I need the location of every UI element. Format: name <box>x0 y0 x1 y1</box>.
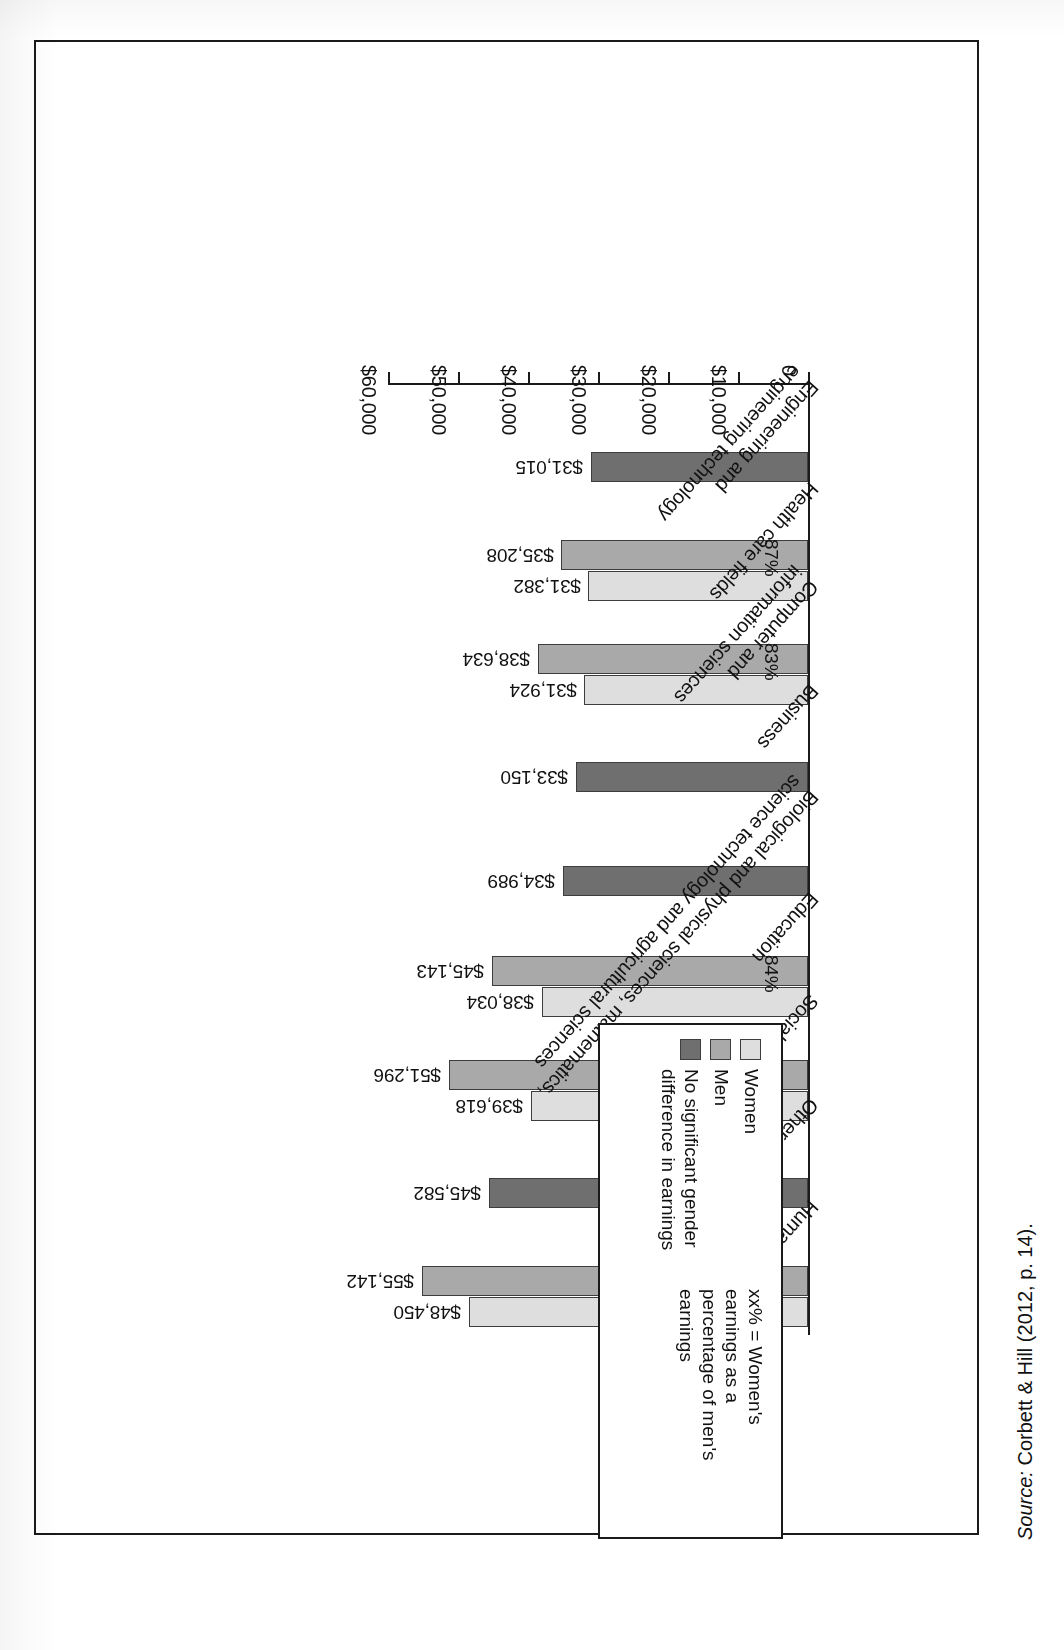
bar-value-women: $31,924 <box>510 675 577 705</box>
legend-label-women: Women <box>740 1069 763 1134</box>
source-prefix: Source: <box>1014 1471 1036 1540</box>
bar-value-nosig: $33,150 <box>501 762 568 792</box>
axis-tick-label: $60,000 <box>357 365 380 435</box>
axis-tick <box>458 372 460 385</box>
axis-tick <box>808 372 810 385</box>
legend-entry-nosig: No significant gender difference in earn… <box>657 1039 703 1250</box>
value-axis: 0 $10,000 $20,000 $30,000 $40,000 $50,00… <box>388 265 810 385</box>
bar-value-women: $39,618 <box>456 1091 523 1121</box>
bar-nosig[interactable] <box>591 452 808 482</box>
figure-page: $48,450 $55,142 88% $45,582 $39,618 $51,… <box>0 0 1064 1650</box>
legend-label-nosig: No significant gender difference in earn… <box>657 1069 703 1250</box>
bar-nosig[interactable] <box>576 762 808 792</box>
legend-swatch-women <box>740 1039 761 1060</box>
axis-tick-label: $40,000 <box>497 365 520 435</box>
rotated-figure-content: $48,450 $55,142 88% $45,582 $39,618 $51,… <box>34 40 975 1531</box>
bar-value-women: $48,450 <box>394 1297 461 1327</box>
legend-swatch-nosig <box>680 1039 701 1060</box>
source-text: Corbett & Hill (2012, p. 14). <box>1014 1223 1036 1471</box>
bar-value-men: $38,634 <box>463 644 530 674</box>
bar-value-men: $51,296 <box>374 1060 441 1090</box>
ratio-annotation: 83% <box>760 643 782 680</box>
bar-value-men: $45,143 <box>417 956 484 986</box>
bar-nosig[interactable] <box>563 866 808 896</box>
axis-tick-label: $30,000 <box>567 365 590 435</box>
category-axis-line <box>808 385 810 1335</box>
bar-chart: $48,450 $55,142 88% $45,582 $39,618 $51,… <box>34 40 975 1531</box>
legend-entry-men: Men <box>710 1039 733 1106</box>
axis-tick <box>388 372 390 385</box>
legend-swatch-men <box>710 1039 731 1060</box>
ratio-annotation: 87% <box>760 539 782 576</box>
axis-tick <box>668 372 670 385</box>
legend-label-men: Men <box>710 1069 733 1106</box>
bar-value-nosig: $45,582 <box>414 1178 481 1208</box>
axis-tick-label: 0 <box>777 365 800 376</box>
axis-tick <box>738 372 740 385</box>
legend-entry-women: Women <box>740 1039 763 1134</box>
axis-tick-label: $10,000 <box>707 365 730 435</box>
bar-value-women: $38,034 <box>467 987 534 1017</box>
axis-tick <box>598 372 600 385</box>
bar-value-men: $35,208 <box>487 540 554 570</box>
ratio-annotation: 84% <box>760 955 782 992</box>
bar-value-nosig: $34,989 <box>488 866 555 896</box>
axis-tick-label: $20,000 <box>637 365 660 435</box>
legend-note: xx% = Women's earnings as a percentage o… <box>675 1289 767 1521</box>
chart-legend: Women Men No significant gender differen… <box>598 1023 783 1539</box>
axis-tick-label: $50,000 <box>427 365 450 435</box>
axis-tick <box>528 372 530 385</box>
bar-value-nosig: $31,015 <box>516 452 583 482</box>
bar-value-men: $55,142 <box>347 1266 414 1296</box>
source-caption: Source: Corbett & Hill (2012, p. 14). <box>1014 1223 1037 1540</box>
bar-value-women: $31,382 <box>514 571 581 601</box>
